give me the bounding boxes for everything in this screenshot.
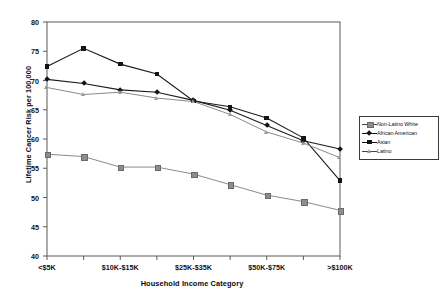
y-tick-label: 45 — [17, 223, 39, 232]
gray-square-marker — [301, 199, 307, 205]
gray-square-marker — [155, 165, 161, 171]
y-tick-label: 60 — [17, 135, 39, 144]
y-tick-label: 50 — [17, 194, 39, 203]
gray-triangle-marker — [337, 155, 341, 159]
gray-square-marker — [338, 208, 344, 214]
legend-marker — [362, 120, 377, 128]
black-square-marker — [81, 46, 86, 51]
gray-triangle-marker — [81, 92, 85, 96]
gray-square-marker — [191, 172, 197, 178]
x-tick-label: $10K-$15K — [102, 263, 139, 272]
gray-square-marker — [265, 193, 271, 199]
y-tick-label: 75 — [17, 47, 39, 56]
gray-square-marker — [45, 152, 51, 158]
black-square-marker — [264, 116, 269, 121]
x-tick-label: $50K-$75K — [248, 263, 285, 272]
legend-item: African American — [362, 129, 435, 137]
black-square-marker — [45, 64, 50, 69]
x-tick-label: $25K-$35K — [175, 263, 212, 272]
gray-triangle-marker — [301, 141, 305, 145]
black-square-icon — [367, 140, 372, 145]
legend-label: Asian — [377, 139, 390, 145]
legend-marker — [362, 147, 377, 155]
legend-item: Asian — [362, 138, 435, 146]
y-tick-label: 65 — [17, 106, 39, 115]
black-square-marker — [118, 62, 123, 67]
gray-triangle-marker — [154, 96, 158, 100]
gray-square-marker — [81, 154, 87, 160]
legend-marker — [362, 138, 377, 146]
chart-figure: Lifetime Cancer Risk per 100,000 Househo… — [0, 0, 446, 304]
y-tick-label: 70 — [17, 77, 39, 86]
gray-triangle-marker — [228, 112, 232, 116]
black-square-marker — [155, 72, 160, 77]
legend-label: Non-Latino White — [377, 121, 418, 127]
legend-item: Latino — [362, 147, 435, 155]
gray-triangle-marker — [44, 85, 48, 89]
black-square-marker — [301, 136, 306, 141]
legend-label: African American — [377, 130, 417, 136]
y-tick-label: 40 — [17, 252, 39, 261]
gray-triangle-marker — [264, 130, 268, 134]
legend-marker — [362, 129, 377, 137]
legend-label: Latino — [377, 148, 391, 154]
gray-triangle-marker — [191, 99, 195, 103]
gray-triangle-marker — [118, 90, 122, 94]
legend: Non-Latino WhiteAfrican AmericanAsianLat… — [359, 116, 439, 160]
x-tick-label: <$5K — [38, 263, 55, 272]
gray-square-marker — [118, 165, 124, 171]
y-tick-label: 80 — [17, 18, 39, 27]
y-tick-label: 55 — [17, 164, 39, 173]
legend-item: Non-Latino White — [362, 120, 435, 128]
gray-triangle-icon — [367, 149, 371, 153]
black-square-marker — [228, 105, 233, 110]
black-diamond-icon — [367, 130, 373, 136]
gray-square-icon — [367, 122, 373, 128]
black-square-marker — [338, 178, 343, 183]
x-tick-label: >$100K — [327, 263, 352, 272]
gray-square-marker — [228, 182, 234, 188]
